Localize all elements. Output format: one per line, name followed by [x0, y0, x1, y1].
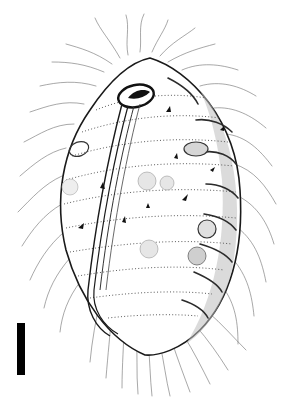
ciliate-illustration — [0, 0, 292, 402]
scale-bar — [17, 323, 25, 375]
